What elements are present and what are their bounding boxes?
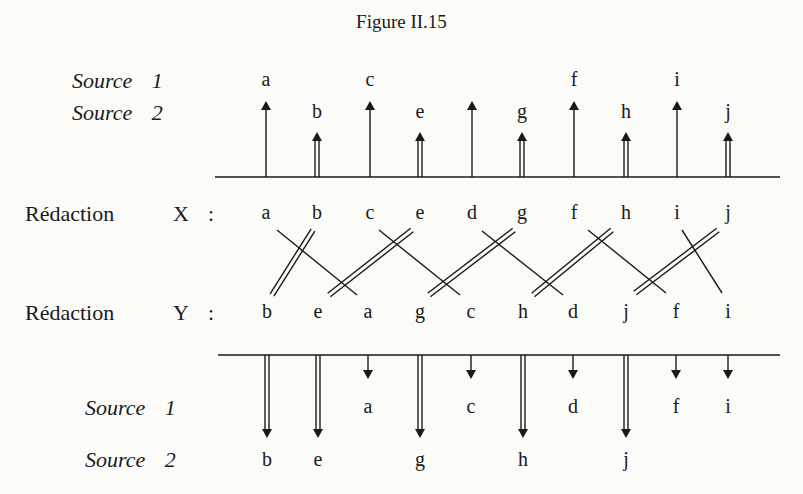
bottom-source-1-letter: a: [364, 395, 373, 418]
redaction-x-letter: e: [416, 201, 425, 224]
arrow-down-icon: [466, 370, 476, 379]
bottom-source-2-letter: e: [314, 448, 323, 471]
arrow-down-icon: [363, 370, 373, 379]
redaction-x-letter: j: [725, 201, 731, 224]
arrow-up-icon: [621, 132, 631, 141]
redaction-y-letter: d: [568, 300, 578, 323]
arrow-up-icon: [467, 101, 477, 110]
redaction-y-letter: f: [673, 300, 680, 323]
bottom-source-2-letter: h: [518, 448, 528, 471]
arrow-up-icon: [415, 132, 425, 141]
redaction-x-letter: h: [621, 201, 631, 224]
link-line-f: [588, 230, 666, 293]
arrow-up-icon: [261, 101, 271, 110]
bottom-source-1-letter: c: [467, 395, 476, 418]
bottom-source-1-letter: i: [725, 395, 731, 418]
top-source-1-letter: f: [571, 68, 578, 91]
redaction-y-letter: h: [518, 300, 528, 323]
top-source-2-letter: j: [725, 100, 731, 123]
arrow-down-icon: [415, 429, 425, 438]
arrow-up-icon: [723, 132, 733, 141]
redaction-y-letter: b: [262, 300, 272, 323]
redaction-x-letter: d: [467, 201, 477, 224]
arrow-up-icon: [312, 132, 322, 141]
arrow-up-icon: [569, 101, 579, 110]
redaction-y-letter: i: [725, 300, 731, 323]
arrow-down-icon: [313, 429, 323, 438]
link-double-line-j: [634, 228, 717, 291]
link-line-d: [482, 231, 563, 295]
link-double-line-h: [532, 228, 611, 293]
redaction-y-letter: g: [415, 300, 425, 323]
top-source-2-letter: e: [416, 100, 425, 123]
top-source-1-letter: i: [674, 68, 680, 91]
link-double-line-e: [328, 228, 411, 293]
transposition-diagram: [0, 0, 803, 494]
top-source-2-letter: h: [621, 100, 631, 123]
arrow-down-icon: [518, 429, 528, 438]
redaction-y-letter: j: [623, 300, 629, 323]
bottom-source-2-letter: b: [262, 448, 272, 471]
redaction-x-letter: a: [262, 201, 271, 224]
arrow-up-icon: [517, 132, 527, 141]
redaction-y-letter: c: [467, 300, 476, 323]
link-double-line-b: [274, 231, 315, 296]
top-source-1-letter: a: [262, 68, 271, 91]
redaction-y-letter: e: [314, 300, 323, 323]
arrow-down-icon: [568, 370, 578, 379]
bottom-source-2-letter: g: [415, 448, 425, 471]
redaction-y-letter: a: [364, 300, 373, 323]
arrow-down-icon: [671, 370, 681, 379]
link-double-line-h: [534, 232, 613, 297]
redaction-x-letter: c: [366, 201, 375, 224]
arrow-down-icon: [723, 370, 733, 379]
link-double-line-e: [330, 232, 413, 297]
arrow-down-icon: [621, 429, 631, 438]
redaction-x-letter: i: [674, 201, 680, 224]
redaction-x-letter: f: [571, 201, 578, 224]
top-source-1-letter: c: [366, 68, 375, 91]
bottom-source-1-letter: d: [568, 395, 578, 418]
redaction-x-letter: g: [517, 201, 527, 224]
link-line-c: [379, 230, 460, 295]
top-source-2-letter: b: [312, 100, 322, 123]
link-double-line-g: [428, 228, 513, 293]
bottom-source-1-letter: f: [673, 395, 680, 418]
arrow-up-icon: [365, 101, 375, 110]
link-double-line-b: [270, 229, 311, 294]
link-double-line-g: [430, 232, 515, 297]
top-source-2-letter: g: [517, 100, 527, 123]
bottom-source-2-letter: j: [623, 448, 629, 471]
link-double-line-j: [636, 232, 719, 295]
arrow-up-icon: [672, 101, 682, 110]
arrow-down-icon: [262, 429, 272, 438]
redaction-x-letter: b: [312, 201, 322, 224]
